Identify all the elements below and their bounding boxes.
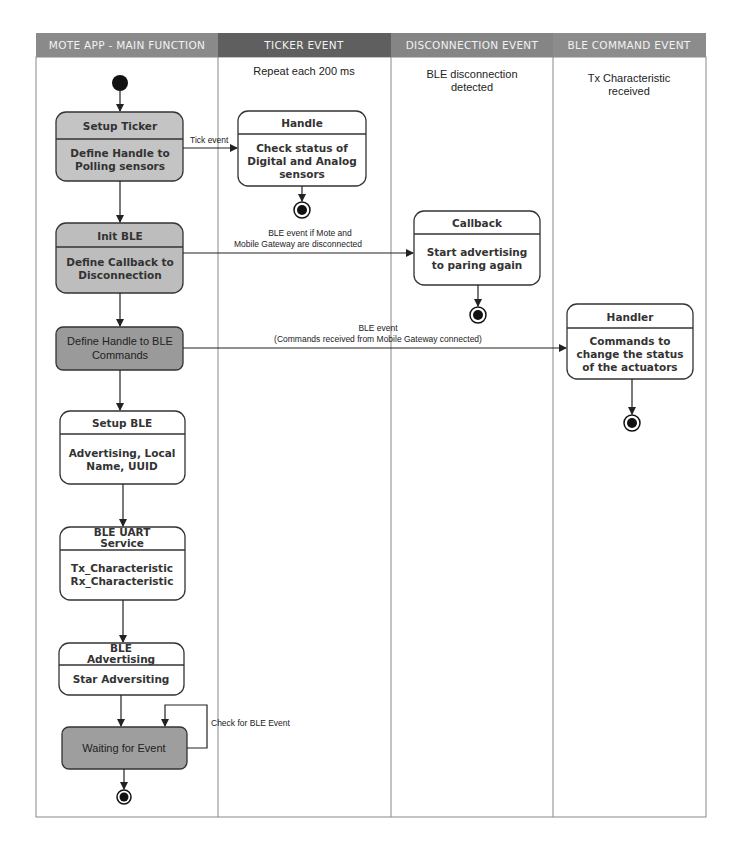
final-node-icon [117, 790, 131, 804]
svg-text:Commands: Commands [92, 349, 149, 361]
svg-text:Star Adversiting: Star Adversiting [73, 673, 170, 685]
edge-label-command-1: BLE event [358, 323, 398, 333]
node-waiting-for-event[interactable]: Waiting for Event [62, 727, 187, 769]
svg-text:to paring again: to paring again [432, 259, 523, 271]
svg-text:Setup BLE: Setup BLE [92, 417, 152, 429]
node-setup-ticker[interactable]: Setup Ticker Define Handle to Polling se… [56, 112, 183, 181]
lane-title-disconnection: DISCONNECTION EVENT [406, 39, 539, 51]
svg-text:Commands to: Commands to [589, 335, 670, 347]
edge-label-disconnect-1: BLE event if Mote and [268, 228, 352, 238]
svg-text:Name, UUID: Name, UUID [86, 460, 158, 472]
edge-label-self-loop: Check for BLE Event [211, 718, 291, 728]
node-setup-ble[interactable]: Setup BLE Advertising, Local Name, UUID [60, 411, 185, 484]
initial-node-icon [112, 75, 128, 91]
activity-diagram: MOTE APP - MAIN FUNCTION TICKER EVENT DI… [0, 0, 740, 848]
node-handler[interactable]: Handler Commands to change the status of… [567, 304, 693, 379]
svg-text:Rx_Characteristic: Rx_Characteristic [71, 575, 174, 588]
svg-text:of the actuators: of the actuators [582, 361, 677, 373]
edge-label-command-2: (Commands received from Mobile Gateway c… [274, 334, 482, 344]
final-node-icon [294, 202, 310, 218]
svg-text:change the status: change the status [577, 348, 684, 360]
svg-text:Advertising: Advertising [87, 653, 155, 665]
lane-title-command: BLE COMMAND EVENT [567, 39, 690, 51]
svg-text:Init BLE: Init BLE [97, 230, 143, 242]
command-subtitle-line2: received [608, 85, 650, 97]
command-subtitle-line1: Tx Characteristic [588, 72, 671, 84]
node-init-ble[interactable]: Init BLE Define Callback to Disconnectio… [56, 223, 183, 293]
svg-text:Tx_Characteristic: Tx_Characteristic [71, 562, 173, 575]
final-node-icon [470, 307, 486, 323]
svg-text:Callback: Callback [452, 217, 503, 229]
node-ble-uart-service[interactable]: BLE UART Service Tx_Characteristic Rx_Ch… [60, 526, 185, 600]
edge-label-tick: Tick event [190, 135, 229, 145]
node-define-handle-ble-commands[interactable]: Define Handle to BLE Commands [56, 327, 183, 370]
svg-text:Disconnection: Disconnection [78, 269, 162, 281]
svg-text:Service: Service [100, 537, 144, 549]
node-ble-advertising[interactable]: BLE Advertising Star Adversiting [59, 642, 184, 695]
svg-text:Handler: Handler [607, 311, 655, 323]
lane-title-main: MOTE APP - MAIN FUNCTION [49, 39, 205, 51]
disconnection-subtitle-line1: BLE disconnection [426, 68, 517, 80]
svg-text:Start advertising: Start advertising [427, 246, 528, 258]
svg-text:Define Handle to: Define Handle to [70, 147, 169, 159]
edge-label-disconnect-2: Mobile Gateway are disconnected [234, 239, 362, 249]
final-node-icon [624, 415, 640, 431]
svg-text:Setup Ticker: Setup Ticker [83, 120, 158, 132]
node-callback[interactable]: Callback Start advertising to paring aga… [414, 211, 540, 285]
disconnection-subtitle-line2: detected [451, 81, 493, 93]
svg-text:Define Handle to BLE: Define Handle to BLE [67, 335, 173, 347]
svg-text:Check status of: Check status of [256, 142, 348, 154]
lane-title-ticker: TICKER EVENT [263, 39, 344, 51]
svg-text:Polling sensors: Polling sensors [75, 160, 165, 172]
svg-text:Advertising, Local: Advertising, Local [69, 447, 176, 459]
svg-text:sensors: sensors [279, 168, 325, 180]
svg-text:Define Callback to: Define Callback to [66, 256, 174, 268]
svg-text:Digital and Analog: Digital and Analog [247, 155, 357, 167]
svg-text:Handle: Handle [281, 117, 323, 129]
ticker-subtitle: Repeat each 200 ms [253, 65, 355, 77]
node-handle[interactable]: Handle Check status of Digital and Analo… [238, 111, 366, 186]
svg-text:Waiting for Event: Waiting for Event [82, 742, 165, 754]
